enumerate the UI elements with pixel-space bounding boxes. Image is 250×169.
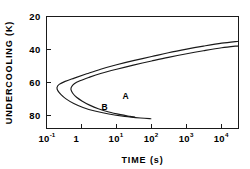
curves-group <box>57 41 239 119</box>
x-tick-label-text-2: 10 <box>109 133 120 144</box>
y-tick-label-1: 40 <box>29 44 40 55</box>
y-axis-title: UNDERCOOLING (K) <box>4 21 14 124</box>
x-tick-label-3: 102 <box>144 131 159 144</box>
x-tick-label-text-0: 10 <box>39 133 50 144</box>
x-tick-label-4: 103 <box>179 131 194 144</box>
x-tick-label-2: 101 <box>109 131 124 144</box>
x-tick-exponent-5: 4 <box>225 131 229 138</box>
y-tick-label-0: 20 <box>29 11 40 22</box>
x-tick-label-text-4: 10 <box>179 133 190 144</box>
ttt-diagram-svg: 10-1110110210310420406080ABTIME (s)UNDER… <box>0 0 250 169</box>
x-tick-exponent-0: -1 <box>50 131 56 138</box>
x-tick-exponent-2: 1 <box>120 131 124 138</box>
chart-figure: 10-1110110210310420406080ABTIME (s)UNDER… <box>0 0 250 169</box>
x-tick-label-0: 10-1 <box>39 131 56 144</box>
x-tick-label-text-5: 10 <box>214 133 225 144</box>
curve-A <box>57 41 239 119</box>
y-tick-label-2: 60 <box>29 77 40 88</box>
plot-frame <box>47 17 239 129</box>
x-axis-title: TIME (s) <box>121 155 163 165</box>
x-tick-exponent-3: 2 <box>155 131 159 138</box>
x-tick-label-text-3: 10 <box>144 133 155 144</box>
x-tick-exponent-4: 3 <box>190 131 194 138</box>
curve-label-B: B <box>101 102 107 112</box>
x-tick-label-5: 104 <box>214 131 229 144</box>
curve-B <box>71 46 239 117</box>
y-tick-label-3: 80 <box>29 110 40 121</box>
x-tick-label-1: 1 <box>74 133 80 144</box>
curve-label-A: A <box>122 91 128 101</box>
x-tick-label-text-1: 1 <box>74 133 80 144</box>
